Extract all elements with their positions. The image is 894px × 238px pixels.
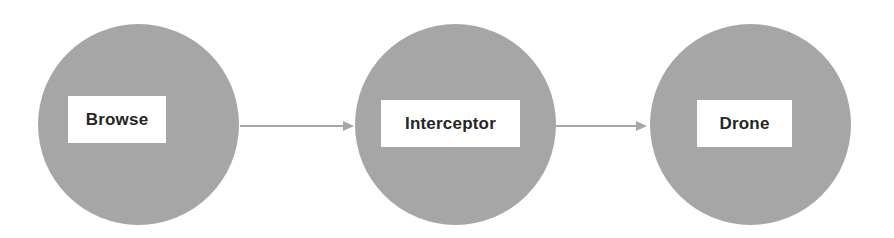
connector-interceptor-to-drone [556, 116, 647, 136]
node-drone-label-box: Drone [697, 100, 792, 147]
node-interceptor-label: Interceptor [405, 115, 496, 132]
node-browse[interactable]: Browse [38, 24, 239, 225]
node-interceptor-label-box: Interceptor [381, 100, 520, 147]
node-browse-label-box: Browse [68, 96, 166, 143]
node-interceptor[interactable]: Interceptor [355, 24, 556, 225]
node-drone-label: Drone [719, 115, 769, 132]
connector-browse-to-interceptor [240, 116, 354, 136]
node-drone[interactable]: Drone [650, 24, 851, 225]
node-browse-label: Browse [86, 111, 149, 128]
flow-diagram-canvas: Browse Interceptor Drone [0, 0, 894, 238]
